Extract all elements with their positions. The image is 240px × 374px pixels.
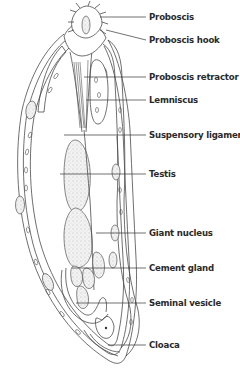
cloaca-pore: [105, 327, 107, 329]
right-body-wall: [108, 40, 139, 356]
retractor-muscle-strands: [74, 60, 88, 128]
cement-gland-3: [93, 252, 105, 278]
giant-nucleus-right-mid: [112, 164, 120, 180]
label-proboscis-retractor: Proboscis retractor: [149, 72, 239, 82]
label-cement-gland: Cement gland: [149, 263, 214, 273]
leader-proboscis-hook: [106, 30, 146, 40]
label-proboscis-hook: Proboscis hook: [149, 35, 220, 45]
testis-posterior: [64, 208, 92, 268]
cement-gland-4: [77, 286, 89, 309]
labels: Proboscis Proboscis hook Proboscis retra…: [149, 12, 240, 350]
label-testis: Testis: [149, 169, 176, 179]
cement-gland-1: [71, 266, 83, 287]
testis-anterior: [64, 140, 90, 212]
label-lemniscus: Lemniscus: [149, 95, 198, 105]
proboscis-core: [82, 16, 90, 34]
label-seminal-vesicle: Seminal vesicle: [149, 298, 222, 308]
label-proboscis: Proboscis: [149, 12, 194, 22]
giant-nucleus-left-lower: [40, 272, 56, 292]
lemniscus-right: [90, 60, 108, 124]
worm-body: [16, 1, 140, 363]
label-giant-nucleus: Giant nucleus: [149, 228, 213, 238]
giant-nucleus-right-tail: [109, 252, 117, 268]
label-suspensory-ligament: Suspensory ligament: [149, 130, 240, 140]
label-cloaca: Cloaca: [149, 340, 180, 350]
worm-anatomy-diagram: Proboscis Proboscis hook Proboscis retra…: [0, 0, 240, 374]
giant-nucleus-left-mid: [16, 196, 25, 214]
cloaca-outline: [95, 316, 114, 338]
